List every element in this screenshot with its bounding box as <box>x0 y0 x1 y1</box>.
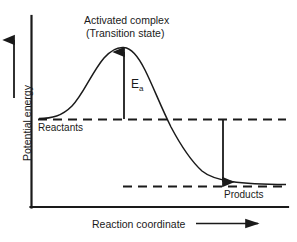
reaction-energy-diagram: Activated complex (Transition state) Rea… <box>0 0 297 242</box>
products-label: Products <box>224 189 263 201</box>
activation-energy-symbol: E <box>131 77 139 91</box>
reactants-label: Reactants <box>38 122 83 134</box>
y-axis-label: Potential energy <box>21 68 33 178</box>
x-axis-label: Reaction coordinate <box>92 218 185 230</box>
activation-energy-label: Ea <box>131 78 143 94</box>
transition-state-title-line1: Activated complex <box>84 14 169 26</box>
transition-state-title-line2: (Transition state) <box>86 27 164 39</box>
activation-energy-subscript: a <box>139 84 143 93</box>
energy-profile-curve <box>39 47 286 184</box>
